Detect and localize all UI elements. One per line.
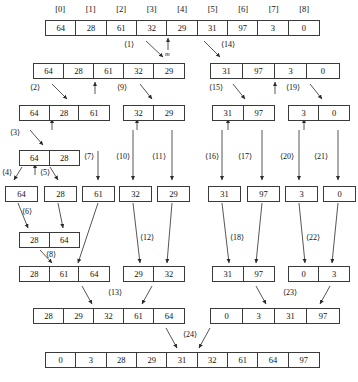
step-label-2: ⟨2⟩: [30, 83, 40, 92]
step-label-19: ⟨19⟩: [286, 83, 300, 92]
cell: 28: [107, 353, 137, 367]
cell: 32: [154, 267, 184, 281]
cell: 0: [289, 267, 319, 281]
step-label-12: ⟨12⟩: [140, 233, 154, 242]
step-label-15: ⟨15⟩: [209, 83, 223, 92]
merge-sort-diagram: [0] [1] [2] [3] [4] [5] [6] [7] [8] 64 2…: [0, 0, 358, 382]
index-label-2: [2]: [106, 4, 137, 14]
cell: 28: [20, 233, 50, 247]
step-label-21: ⟨21⟩: [314, 152, 328, 161]
array-left-3: 64 28 61: [19, 105, 110, 121]
arrow-22-right: [332, 203, 338, 263]
cell: 97: [243, 64, 275, 78]
cell: 28: [76, 21, 106, 35]
index-label-8: [8]: [289, 4, 320, 14]
cell: 97: [244, 267, 274, 281]
step-label-18: ⟨18⟩: [230, 233, 244, 242]
cell: 32: [124, 64, 154, 78]
arrow-12-left: [133, 203, 140, 263]
cell: 3: [76, 353, 106, 367]
cell: 61: [124, 309, 154, 323]
cell: 64: [154, 309, 184, 323]
arrow-14: [204, 41, 220, 57]
cell: 0: [211, 309, 243, 323]
step-label-8: ⟨8⟩: [46, 250, 56, 259]
cell: 31: [167, 353, 197, 367]
cell: 97: [289, 353, 319, 367]
index-label-0: [0]: [45, 4, 76, 14]
merged-28-61-64: 28 61 64: [19, 266, 110, 282]
step-label-9: ⟨9⟩: [117, 83, 127, 92]
arrow-18-right: [256, 203, 262, 263]
cell: 0: [319, 106, 349, 120]
step-label-13: ⟨13⟩: [108, 288, 122, 297]
cell: 28: [20, 267, 50, 281]
cell: 31: [198, 21, 228, 35]
arrow-24-right: [199, 328, 210, 348]
arrow-2: [52, 84, 67, 99]
cell: 31: [213, 267, 244, 281]
cell: 31: [209, 187, 240, 201]
cell: 97: [248, 187, 279, 201]
single-32: 32: [119, 186, 152, 202]
cell: 64: [20, 151, 50, 165]
cell: 29: [167, 21, 197, 35]
cell: 32: [120, 187, 151, 201]
cell: 3: [289, 106, 319, 120]
cell: 64: [50, 233, 79, 247]
cell: 0: [324, 187, 355, 201]
single-0: 0: [323, 186, 356, 202]
cell: 61: [83, 187, 114, 201]
cell: 64: [6, 187, 37, 201]
array-right-right-2: 3 0: [288, 105, 350, 121]
single-97: 97: [247, 186, 280, 202]
cell: 3: [258, 21, 288, 35]
single-29: 29: [157, 186, 190, 202]
cell: 28: [50, 151, 79, 165]
array-initial-full: 64 28 61 32 29 31 97 3 0: [45, 20, 320, 36]
array-left-2: 32 29: [123, 105, 185, 121]
cell: 0: [307, 64, 339, 78]
single-31: 31: [208, 186, 241, 202]
cell: 29: [124, 267, 154, 281]
arrow-19: [310, 84, 322, 99]
index-label-5: [5]: [198, 4, 229, 14]
arrow-13-right: [142, 286, 152, 304]
step-label-14: ⟨14⟩: [221, 40, 235, 49]
arrow-12-right: [167, 203, 172, 263]
index-label-3: [3]: [137, 4, 168, 14]
index-header-row: [0] [1] [2] [3] [4] [5] [6] [7] [8]: [45, 4, 320, 16]
cell: 28: [34, 309, 64, 323]
step-label-11: ⟨11⟩: [152, 152, 166, 161]
cell: 64: [46, 21, 76, 35]
cell: 64: [258, 353, 288, 367]
step-label-10: ⟨10⟩: [116, 152, 130, 161]
merged-left-5: 28 29 32 61 64: [33, 308, 185, 324]
index-label-7: [7]: [259, 4, 290, 14]
step-label-5: ⟨5⟩: [40, 168, 50, 177]
cell: 97: [228, 21, 258, 35]
cell: 0: [289, 21, 319, 35]
single-61: 61: [82, 186, 115, 202]
single-3: 3: [285, 186, 318, 202]
cell: 61: [228, 353, 258, 367]
cell: 0: [46, 353, 76, 367]
step-label-6: ⟨6⟩: [22, 207, 32, 216]
cell: 29: [158, 187, 189, 201]
arrow-23-left: [256, 286, 266, 304]
step-label-3: ⟨3⟩: [10, 128, 20, 137]
cell: 29: [64, 309, 94, 323]
cell: 32: [137, 21, 167, 35]
single-64: 64: [5, 186, 38, 202]
cell: 61: [94, 64, 124, 78]
index-label-4: [4]: [167, 4, 198, 14]
arrow-8-right: [78, 203, 98, 263]
arrow-6-right: [58, 203, 63, 228]
cell: 29: [154, 64, 184, 78]
cell: 61: [107, 21, 137, 35]
arrow-22-left: [299, 203, 305, 263]
cell: 64: [20, 106, 50, 120]
array-final-sorted: 0 3 28 29 31 32 61 64 97: [45, 352, 320, 368]
cell: 97: [307, 309, 339, 323]
cell: 28: [45, 187, 76, 201]
